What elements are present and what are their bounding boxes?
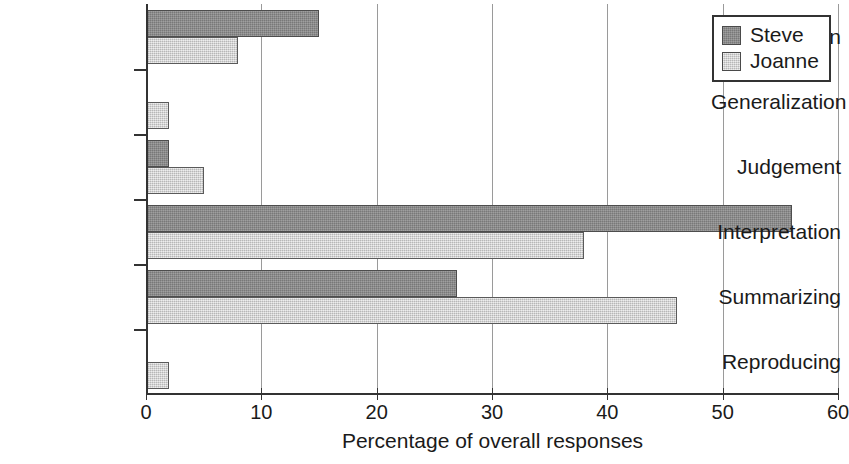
bar-judgement-joanne	[146, 167, 204, 194]
category-label-judgement: Judgement	[711, 155, 849, 179]
bar-judgement-steve	[146, 140, 169, 167]
gridline-40	[607, 4, 608, 394]
x-tick-label-0: 0	[116, 400, 176, 424]
chart-legend: Steve Joanne	[712, 15, 831, 82]
gridline-60	[838, 4, 839, 394]
x-axis-title: Percentage of overall responses	[146, 428, 839, 454]
x-tick-20	[377, 388, 378, 400]
category-label-summarizing: Summarizing	[711, 285, 849, 309]
bar-interpretation-joanne	[146, 232, 584, 259]
y-tick-3	[134, 199, 146, 201]
x-tick-label-30: 30	[462, 400, 522, 424]
bar-interpretation-steve	[146, 205, 792, 232]
gridline-20	[377, 4, 378, 394]
bar-abstraction-joanne	[146, 37, 238, 64]
x-tick-label-40: 40	[577, 400, 637, 424]
bar-generalization-joanne	[146, 102, 169, 129]
gridline-30	[492, 4, 493, 394]
legend-swatch-steve-icon	[722, 26, 741, 45]
y-tick-2	[134, 134, 146, 136]
x-tick-label-50: 50	[693, 400, 753, 424]
legend-swatch-joanne-icon	[722, 52, 741, 71]
category-label-reproducing: Reproducing	[711, 350, 849, 374]
y-axis-line	[146, 4, 148, 394]
category-label-generalization: Generalization	[711, 90, 849, 114]
legend-item-steve: Steve	[722, 22, 819, 48]
x-tick-label-10: 10	[231, 400, 291, 424]
x-tick-60	[838, 388, 839, 400]
x-tick-50	[723, 388, 724, 400]
y-tick-1	[134, 69, 146, 71]
y-tick-5	[134, 329, 146, 331]
bar-reproducing-joanne	[146, 362, 169, 389]
x-tick-label-20: 20	[347, 400, 407, 424]
x-tick-label-60: 60	[808, 400, 849, 424]
x-tick-0	[146, 388, 147, 400]
x-tick-30	[492, 388, 493, 400]
legend-item-joanne: Joanne	[722, 48, 819, 74]
legend-label-joanne: Joanne	[750, 49, 819, 73]
x-tick-10	[261, 388, 262, 400]
legend-label-steve: Steve	[750, 23, 804, 47]
bar-abstraction-steve	[146, 10, 319, 37]
category-label-interpretation: Interpretation	[711, 220, 849, 244]
bar-summarizing-steve	[146, 270, 457, 297]
bar-summarizing-joanne	[146, 297, 677, 324]
y-tick-4	[134, 264, 146, 266]
bar-chart: 0102030405060 AbstractionGeneralizationJ…	[0, 0, 849, 464]
gridline-10	[261, 4, 262, 394]
x-tick-40	[607, 388, 608, 400]
